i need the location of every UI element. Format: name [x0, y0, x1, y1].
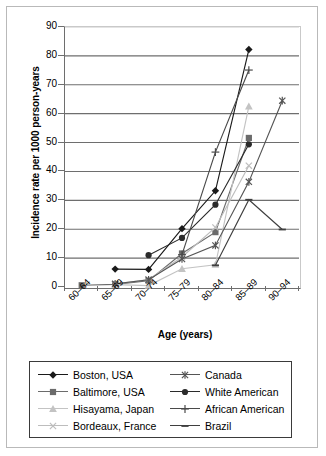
- data-point-plus: [212, 148, 220, 156]
- x-tick-mark: [298, 286, 299, 291]
- figure-frame: Incidence rate per 1000 person-years 010…: [6, 6, 318, 448]
- data-point-triangle: [245, 103, 253, 110]
- x-axis-title: Age (years): [7, 329, 319, 340]
- data-point-asterisk: [182, 371, 188, 379]
- legend-item-boston-usa[interactable]: Boston, USA: [38, 366, 166, 383]
- legend-marker-triangle-icon: [38, 402, 68, 416]
- x-tick-mark: [265, 286, 266, 291]
- y-tick-label: 90: [17, 21, 57, 31]
- data-point-diamond: [111, 265, 118, 272]
- legend-marker-asterisk-icon: [170, 368, 200, 382]
- data-point-triangle: [49, 405, 57, 412]
- data-point-circle: [212, 202, 218, 208]
- legend-marker-plus-icon: [170, 402, 200, 416]
- legend-item-bordeaux-france[interactable]: Bordeaux, France: [38, 417, 166, 434]
- data-point-plus: [181, 405, 189, 413]
- legend-label: Canada: [200, 369, 242, 381]
- plot-area: [64, 26, 301, 289]
- series-canvas: [65, 27, 299, 287]
- y-tick-label: 80: [17, 50, 57, 60]
- legend-marker-square-icon: [38, 385, 68, 399]
- legend-item-hisayama-japan[interactable]: Hisayama, Japan: [38, 400, 166, 417]
- chart-area: Incidence rate per 1000 person-years 010…: [7, 7, 319, 347]
- x-tick-mark: [64, 286, 65, 291]
- series-line-5: [149, 144, 249, 255]
- x-tick-mark: [164, 286, 165, 291]
- y-tick-label: 10: [17, 252, 57, 262]
- data-point-diamond: [245, 46, 252, 53]
- data-point-cross-x: [50, 422, 56, 428]
- data-point-diamond: [49, 371, 56, 378]
- legend-label: Brazil: [200, 420, 231, 432]
- series-line-4: [115, 101, 282, 284]
- x-tick-mark: [131, 286, 132, 291]
- chart-legend: Boston, USABaltimore, USAHisayama, Japan…: [29, 361, 292, 438]
- legend-marker-cross-x-icon: [38, 419, 68, 433]
- y-tick-label: 40: [17, 165, 57, 175]
- legend-item-african-american[interactable]: African American: [170, 400, 290, 417]
- x-axis-title-text: Age (years): [114, 329, 212, 340]
- data-point-square: [246, 135, 252, 141]
- legend-label: Bordeaux, France: [68, 420, 156, 432]
- y-tick-label: 0: [17, 281, 57, 291]
- legend-label: Boston, USA: [68, 369, 133, 381]
- data-point-asterisk: [212, 242, 218, 250]
- data-point-asterisk: [246, 178, 252, 186]
- legend-item-brazil[interactable]: Brazil: [170, 417, 290, 434]
- y-axis-title: Incidence rate per 1000 person-years: [30, 33, 41, 273]
- y-tick-label: 60: [17, 108, 57, 118]
- x-tick-mark: [97, 286, 98, 291]
- data-point-circle: [145, 252, 151, 258]
- legend-label: African American: [200, 403, 284, 415]
- x-tick-mark: [231, 286, 232, 291]
- legend-label: Baltimore, USA: [68, 386, 145, 398]
- legend-label: Hisayama, Japan: [68, 403, 154, 415]
- data-point-cross-x: [246, 163, 252, 169]
- data-point-circle: [182, 388, 188, 394]
- legend-marker-circle-icon: [170, 385, 200, 399]
- legend-column-left: Boston, USABaltimore, USAHisayama, Japan…: [38, 366, 166, 434]
- x-tick-mark: [198, 286, 199, 291]
- data-point-circle: [246, 141, 252, 147]
- y-tick-label: 30: [17, 194, 57, 204]
- legend-item-white-american[interactable]: White American: [170, 383, 290, 400]
- legend-item-canada[interactable]: Canada: [170, 366, 290, 383]
- y-tick-label: 70: [17, 79, 57, 89]
- data-point-circle: [179, 235, 185, 241]
- legend-column-right: CanadaWhite AmericanAfrican AmericanBraz…: [170, 366, 290, 434]
- legend-marker-diamond-icon: [38, 368, 68, 382]
- data-point-asterisk: [279, 97, 285, 105]
- data-point-plus: [245, 66, 253, 74]
- y-tick-label: 20: [17, 223, 57, 233]
- legend-marker-dash-icon: [170, 419, 200, 433]
- legend-item-baltimore-usa[interactable]: Baltimore, USA: [38, 383, 166, 400]
- legend-label: White American: [200, 386, 279, 398]
- y-tick-label: 50: [17, 137, 57, 147]
- data-point-square: [50, 388, 56, 394]
